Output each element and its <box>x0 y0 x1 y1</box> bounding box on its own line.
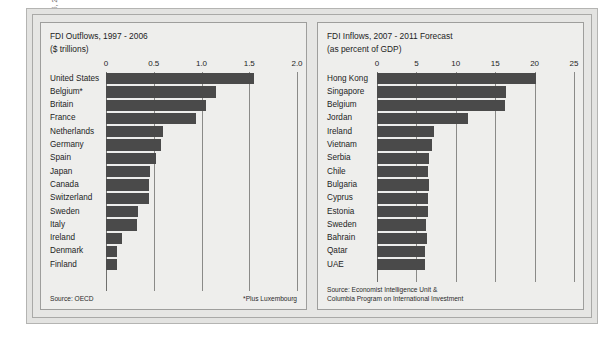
bar-track <box>106 218 297 231</box>
bar-category-label: Chile <box>327 168 377 176</box>
bar <box>377 233 427 244</box>
right-source-note: Source: Economist Intelligence Unit & Co… <box>327 285 463 303</box>
bar <box>106 139 161 150</box>
bar <box>377 166 428 177</box>
panel-fdi-outflows: FDI Outflows, 1997 - 2006 ($ trillions) … <box>40 22 307 310</box>
bar-track <box>377 112 574 125</box>
bar-row: Japan <box>50 165 297 178</box>
bar-track <box>377 218 574 231</box>
bar-track <box>377 258 574 271</box>
bar-track <box>106 85 297 98</box>
bar-track <box>106 152 297 165</box>
bar-category-label: Bulgaria <box>327 181 377 189</box>
bar-row: UAE <box>327 258 574 271</box>
left-footnote: *Plus Luxembourg <box>243 294 297 303</box>
bar-row: Sweden <box>327 218 574 231</box>
bar-row: Italy <box>50 218 297 231</box>
right-chart-title: FDI Inflows, 2007 - 2011 Forecast <box>327 31 574 42</box>
bar-track <box>377 99 574 112</box>
bar-row: Bahrain <box>327 232 574 245</box>
right-chart-subtitle: (as percent of GDP) <box>327 44 574 55</box>
x-tick-label: 20 <box>530 59 539 68</box>
bar-category-label: Belgium* <box>50 88 106 96</box>
left-x-axis: 00.51.01.52.0 <box>106 59 297 72</box>
bar-row: Vietnam <box>327 138 574 151</box>
bar <box>106 100 206 111</box>
bar-row: Qatar <box>327 245 574 258</box>
bar-category-label: UAE <box>327 261 377 269</box>
bar-track <box>106 112 297 125</box>
bar-track <box>106 232 297 245</box>
bar <box>377 259 425 270</box>
bar-row: Britain <box>50 99 297 112</box>
bar-track <box>106 245 297 258</box>
bar-row: Denmark <box>50 245 297 258</box>
bar <box>377 73 536 84</box>
bar-category-label: Vietnam <box>327 141 377 149</box>
bar-track <box>106 165 297 178</box>
bar-category-label: Cyprus <box>327 194 377 202</box>
left-source-note: Source: OECD <box>50 294 94 303</box>
bar <box>377 153 429 164</box>
bar-category-label: Italy <box>50 221 106 229</box>
bar-track <box>377 85 574 98</box>
bar <box>377 139 432 150</box>
bar-row: Hong Kong <box>327 72 574 85</box>
bar <box>106 219 137 230</box>
x-tick-label: 1.5 <box>244 59 255 68</box>
bar-track <box>106 205 297 218</box>
bar-category-label: Jordan <box>327 114 377 122</box>
x-tick-label: 15 <box>491 59 500 68</box>
bar-category-label: France <box>50 114 106 122</box>
left-plot-area: 00.51.01.52.0 United StatesBelgium*Brita… <box>50 59 297 291</box>
bar-category-label: Singapore <box>327 88 377 96</box>
bar-category-label: Belgium <box>327 101 377 109</box>
bar <box>106 153 156 164</box>
bar-category-label: Finland <box>50 261 106 269</box>
bar-row: Belgium <box>327 99 574 112</box>
bar <box>106 126 163 137</box>
bar-row: Netherlands <box>50 125 297 138</box>
bar-track <box>377 245 574 258</box>
left-chart-title: FDI Outflows, 1997 - 2006 <box>50 31 297 42</box>
x-tick-label: 1.0 <box>196 59 207 68</box>
left-chart-subtitle: ($ trillions) <box>50 44 297 55</box>
bar <box>377 179 429 190</box>
right-panel-footer: Source: Economist Intelligence Unit & Co… <box>327 285 574 303</box>
bar-track <box>377 232 574 245</box>
x-tick-label: 0.5 <box>148 59 159 68</box>
right-x-axis: 0510152025 <box>377 59 574 72</box>
chart-page: FDI outflows, Economist June 30, 2007, 1… <box>0 0 611 339</box>
bar-row: United States <box>50 72 297 85</box>
panel-fdi-inflows: FDI Inflows, 2007 - 2011 Forecast (as pe… <box>317 22 584 310</box>
x-tick-label: 0 <box>104 59 108 68</box>
bar <box>106 86 216 97</box>
bar-category-label: United States <box>50 75 106 83</box>
bar-category-label: Hong Kong <box>327 75 377 83</box>
bar <box>106 193 149 204</box>
bar <box>377 219 426 230</box>
bar <box>377 193 428 204</box>
bar-category-label: Serbia <box>327 154 377 162</box>
bar-track <box>106 72 297 85</box>
bar-track <box>377 192 574 205</box>
bar-row: Switzerland <box>50 192 297 205</box>
bar-row: Germany <box>50 138 297 151</box>
bar <box>377 246 425 257</box>
bar-row: Bulgaria <box>327 178 574 191</box>
bar-category-label: Spain <box>50 154 106 162</box>
bar-row: Cyprus <box>327 192 574 205</box>
bar-row: Ireland <box>327 125 574 138</box>
bar-track <box>377 178 574 191</box>
left-panel-footer: Source: OECD *Plus Luxembourg <box>50 294 297 303</box>
bar <box>377 100 505 111</box>
chart-inner-frame: FDI Outflows, 1997 - 2006 ($ trillions) … <box>32 14 592 318</box>
gridline <box>297 72 298 291</box>
bar-category-label: Canada <box>50 181 106 189</box>
bar-row: Sweden <box>50 205 297 218</box>
bar-category-label: Sweden <box>50 208 106 216</box>
bar-row: Chile <box>327 165 574 178</box>
x-tick-label: 5 <box>414 59 418 68</box>
bar <box>106 166 150 177</box>
bar <box>106 206 138 217</box>
